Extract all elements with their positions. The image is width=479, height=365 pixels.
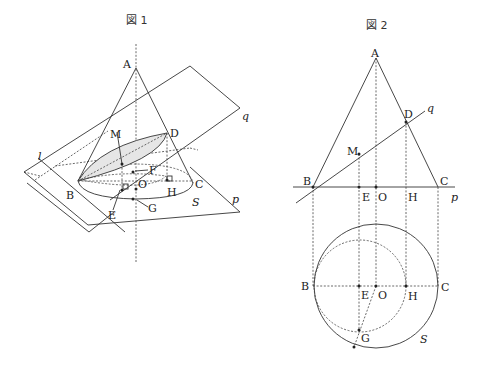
label-F-leader — [135, 170, 148, 171]
label-p: p — [232, 193, 239, 206]
label-O2: O — [378, 289, 387, 302]
figure-1-title: 図 1 — [126, 14, 148, 27]
point-G-outer — [353, 346, 356, 349]
label-B: B — [303, 175, 311, 188]
label-H: H — [408, 191, 418, 204]
label-S: S — [192, 196, 200, 209]
label-M: M — [347, 145, 358, 158]
label-S: S — [420, 333, 428, 346]
point-G — [132, 198, 135, 201]
label-G: G — [361, 332, 370, 345]
label-p: p — [451, 191, 458, 204]
label-C: C — [440, 175, 448, 188]
label-G-leader — [137, 200, 148, 207]
label-H2: H — [408, 290, 418, 303]
label-E2: E — [361, 289, 369, 302]
label-H: H — [167, 186, 177, 199]
label-C: C — [195, 178, 203, 191]
label-E: E — [108, 209, 116, 222]
label-E: E — [362, 191, 370, 204]
label-B2: B — [301, 280, 309, 293]
figure-2-title: 図 2 — [366, 19, 388, 32]
label-A: A — [122, 58, 132, 71]
point-F — [132, 171, 135, 174]
label-q: q — [242, 110, 249, 123]
label-q: q — [427, 102, 434, 115]
label-O: O — [378, 191, 387, 204]
label-E-leader — [113, 190, 120, 210]
label-F: F — [149, 164, 157, 177]
figure-1: 図 1 — [24, 14, 249, 262]
label-C2: C — [441, 281, 449, 294]
cone-edge-right — [136, 68, 193, 183]
label-B: B — [66, 189, 74, 202]
figure-2: 図 2 A D q M B C E — [293, 19, 458, 349]
point-E — [358, 186, 361, 189]
line-q — [296, 111, 425, 203]
label-D: D — [404, 108, 413, 121]
label-O: O — [138, 178, 147, 191]
point-E — [121, 189, 124, 192]
point-O2 — [375, 285, 378, 288]
geometry-diagram: 図 1 — [0, 0, 479, 365]
point-H — [166, 179, 169, 182]
label-A: A — [370, 47, 380, 60]
plane-p-hidden-2 — [190, 148, 198, 150]
side-AB — [313, 58, 376, 187]
label-D: D — [170, 127, 179, 140]
point-O — [375, 186, 378, 189]
label-G: G — [148, 202, 157, 215]
point-M — [121, 163, 124, 166]
label-l: l — [38, 150, 42, 163]
point-E2 — [358, 285, 361, 288]
point-H2 — [405, 285, 408, 288]
plane-p — [24, 167, 240, 225]
point-B — [312, 186, 315, 189]
label-M: M — [110, 128, 121, 141]
